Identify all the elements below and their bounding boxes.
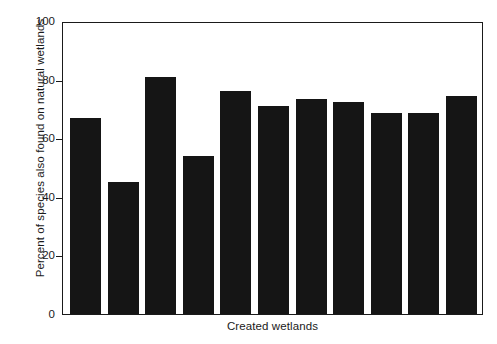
y-tick-label: 80 [22, 75, 55, 87]
bar [333, 102, 364, 314]
bar [371, 113, 402, 314]
y-tick-mark [56, 81, 63, 82]
y-tick-label: 40 [22, 192, 55, 204]
y-tick-mark [56, 256, 63, 257]
bar [108, 182, 139, 314]
y-tick-label: 20 [22, 251, 55, 263]
plot-area [62, 22, 483, 315]
y-tick-label: 100 [22, 16, 55, 28]
bar [258, 106, 289, 314]
bar [408, 113, 439, 314]
bar [446, 96, 477, 314]
y-tick-mark [56, 139, 63, 140]
y-tick-mark [56, 198, 63, 199]
y-tick-label: 60 [22, 133, 55, 145]
bar [220, 91, 251, 314]
bar [183, 156, 214, 314]
y-tick-label: 0 [22, 309, 55, 321]
bars-container [63, 23, 482, 314]
y-axis-tick-labels: 020406080100 [22, 0, 55, 344]
bar [296, 99, 327, 314]
bar-chart-figure: Percent of species also found on natural… [0, 0, 497, 344]
x-axis-title: Created wetlands [62, 320, 483, 332]
bar [145, 77, 176, 314]
bar [70, 118, 101, 314]
